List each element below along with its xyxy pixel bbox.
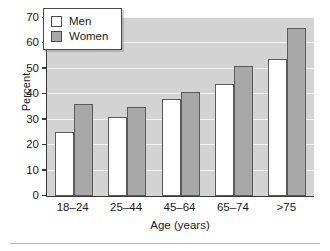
bar-women-4 [287,28,306,196]
bar-women-2 [181,92,200,196]
bar-men-0 [55,132,74,196]
y-axis-tick-mark [42,195,47,197]
footer-divider [10,243,320,244]
bar-men-3 [215,84,234,196]
bar-men-4 [268,59,287,196]
legend-swatch-men-icon [51,16,62,27]
bar-women-1 [127,107,146,196]
x-axis-tick-label: 25–44 [99,201,152,214]
bar-men-2 [162,99,181,196]
legend-label-women: Women [69,30,108,43]
y-axis-tick-mark [42,93,47,95]
y-axis-tick-label: 70 [19,12,39,24]
legend-item-men: Men [51,14,108,29]
x-axis-tick-label: >75 [260,201,313,214]
legend-swatch-women-icon [51,31,62,42]
x-axis-tick-label: 65–74 [206,201,259,214]
y-axis-tick-label: 10 [19,165,39,177]
x-axis-tick-label: 45–64 [153,201,206,214]
y-axis-tick-labels: 706050403020100 [16,0,39,251]
y-axis-tick-mark [42,118,47,120]
bar-men-1 [108,117,127,196]
x-axis-title: Age (years) [46,219,314,231]
bar-women-0 [74,104,93,196]
y-axis-tick-label: 40 [19,88,39,100]
y-axis-tick-label: 50 [19,63,39,75]
bar-chart-figure: Percent 706050403020100 Men Women 18–242… [0,0,330,251]
y-axis-tick-label: 30 [19,114,39,126]
x-axis-tick-label: 18–24 [46,201,99,214]
y-axis-tick-mark [42,144,47,146]
y-axis-tick-mark [42,67,47,69]
chart-legend: Men Women [43,8,122,50]
y-axis-tick-label: 60 [19,37,39,49]
legend-item-women: Women [51,29,108,44]
y-axis-tick-mark [42,169,47,171]
y-axis-tick-label: 20 [19,139,39,151]
x-axis-tick-labels: 18–2425–4445–6465–74>75 [46,201,314,217]
legend-label-men: Men [69,15,91,28]
y-axis-tick-label: 0 [19,190,39,202]
bar-women-3 [234,66,253,196]
